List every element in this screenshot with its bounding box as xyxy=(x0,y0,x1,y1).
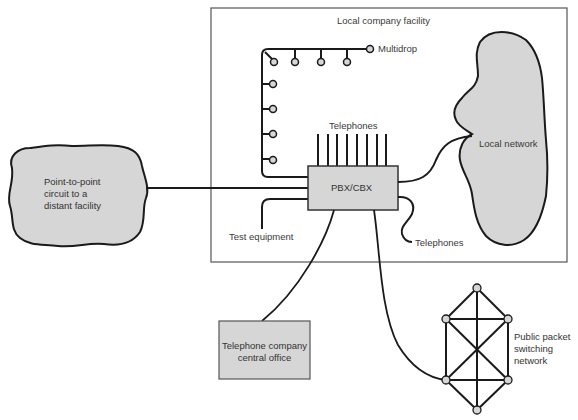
test-equipment-line xyxy=(262,199,308,229)
packet-network-line1: Public packet xyxy=(514,331,571,343)
packet-network-links xyxy=(446,288,508,410)
telephones-right-label: Telephones xyxy=(415,237,464,249)
pbx-label: PBX/CBX xyxy=(331,182,372,194)
pbx-to-packet-network-line xyxy=(374,210,446,380)
packet-network-line3: network xyxy=(514,355,571,367)
telephones-top-label: Telephones xyxy=(329,120,378,132)
pbx-to-telephones-line xyxy=(398,197,413,242)
central-office-line1: Telephone company xyxy=(219,340,310,352)
telephone-lines-top xyxy=(318,134,386,166)
point-to-point-label: Point-to-point circuit to a distant faci… xyxy=(44,176,101,212)
central-office-label: Telephone company central office xyxy=(219,340,310,364)
point-to-point-line3: distant facility xyxy=(44,200,101,212)
packet-network-label: Public packet switching network xyxy=(514,331,571,367)
packet-network-line2: switching xyxy=(514,343,571,355)
point-to-point-line2: circuit to a xyxy=(44,188,101,200)
pbx-to-central-office-line xyxy=(262,210,334,321)
point-to-point-line1: Point-to-point xyxy=(44,176,101,188)
facility-label: Local company facility xyxy=(337,15,430,27)
multidrop-line xyxy=(262,49,367,177)
local-network-label: Local network xyxy=(479,138,538,150)
test-equipment-label: Test equipment xyxy=(229,231,293,243)
central-office-line2: central office xyxy=(219,352,310,364)
multidrop-label: Multidrop xyxy=(378,43,417,55)
